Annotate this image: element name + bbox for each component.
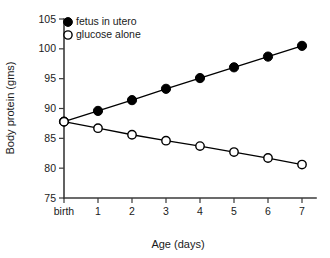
line-chart: 1051009590858075 birth1234567 fetus in u…	[0, 0, 330, 258]
x-tick-label: 1	[95, 205, 101, 217]
legend-marker-filled-circle	[64, 18, 73, 27]
data-point-open-circle	[196, 142, 204, 150]
data-point-open-circle	[128, 131, 136, 139]
data-point-filled-circle	[127, 96, 136, 105]
y-tick-label: 95	[44, 72, 56, 84]
data-point-filled-circle	[93, 106, 102, 115]
data-point-filled-circle	[229, 63, 238, 72]
y-tick-label: 100	[38, 42, 56, 54]
data-point-filled-circle	[161, 84, 170, 93]
data-point-filled-circle	[263, 52, 272, 61]
data-point-open-circle	[162, 137, 170, 145]
data-point-open-circle	[298, 160, 306, 168]
x-tick-label: 6	[265, 205, 271, 217]
y-axis-title: Body protein (gms)	[4, 62, 16, 155]
chart-legend: fetus in uteroglucose alone	[64, 15, 141, 40]
x-tick-label: 5	[231, 205, 237, 217]
data-point-filled-circle	[195, 73, 204, 82]
y-tick-label: 90	[44, 102, 56, 114]
x-tick-label: 3	[163, 205, 169, 217]
x-tick-label: 4	[197, 205, 203, 217]
x-tick-label: 2	[129, 205, 135, 217]
legend-marker-open-circle	[64, 31, 72, 39]
data-point-open-circle	[264, 154, 272, 162]
x-tick-label: 7	[299, 205, 305, 217]
data-point-open-circle	[230, 148, 238, 156]
legend-label: glucose alone	[76, 28, 141, 40]
data-point-open-circle	[94, 124, 102, 132]
y-tick-label: 80	[44, 162, 56, 174]
y-axis-ticks: 1051009590858075	[38, 13, 64, 204]
x-tick-label: birth	[54, 205, 75, 217]
x-axis-title: Age (days)	[151, 238, 204, 250]
x-axis-ticks: birth1234567	[54, 198, 305, 217]
legend-label: fetus in utero	[76, 15, 137, 27]
data-series-layer	[59, 41, 306, 169]
chart-container: 1051009590858075 birth1234567 fetus in u…	[0, 0, 330, 258]
y-tick-label: 105	[38, 13, 56, 25]
y-tick-label: 85	[44, 132, 56, 144]
y-tick-label: 75	[44, 192, 56, 204]
data-point-filled-circle	[297, 41, 306, 50]
data-point-open-circle	[60, 117, 68, 125]
